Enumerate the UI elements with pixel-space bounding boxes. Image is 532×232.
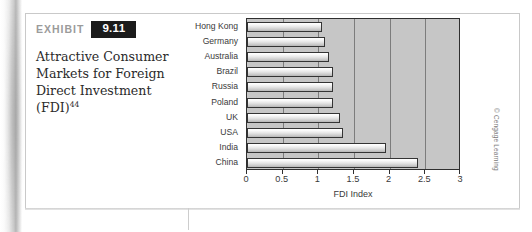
exhibit-header: EXHIBIT 9.11 (36, 22, 186, 37)
category-label-china: China (216, 157, 238, 167)
bar-row (247, 22, 459, 32)
bar-australia (247, 52, 329, 62)
tick-label-3: 3 (457, 174, 462, 185)
bar-row (247, 67, 459, 77)
exhibit-caption: EXHIBIT 9.11 Attractive Consumer Markets… (36, 22, 186, 116)
bar-russia (247, 82, 333, 92)
bar-india (247, 143, 386, 153)
bar-row (247, 113, 459, 123)
category-label-australia: Australia (205, 51, 238, 61)
tick-label-1.5: 1.5 (347, 174, 360, 185)
tick-label-1: 1 (315, 174, 320, 185)
title-footnote-marker: 44 (70, 100, 80, 109)
value-axis: 00.511.522.53 (246, 170, 460, 186)
category-label-russia: Russia (212, 81, 238, 91)
exhibit-title: Attractive Consumer Markets for Foreign … (36, 48, 186, 116)
bar-row (247, 37, 459, 47)
bar-hong-kong (247, 22, 322, 32)
bar-row (247, 52, 459, 62)
category-label-india: India (219, 142, 238, 152)
column-divider (188, 208, 189, 230)
category-label-hong-kong: Hong Kong (195, 21, 238, 31)
bar-germany (247, 37, 325, 47)
category-axis-labels: Hong KongGermanyAustraliaBrazilRussiaPol… (184, 18, 242, 170)
exhibit-label: EXHIBIT (36, 24, 84, 35)
title-line-2: Markets for Foreign (36, 66, 165, 81)
bar-poland (247, 98, 333, 108)
page-bottom-rule (25, 208, 520, 210)
bar-row (247, 143, 459, 153)
title-line-3: Direct Investment (36, 83, 151, 98)
category-label-uk: UK (226, 112, 238, 122)
bar-row (247, 128, 459, 138)
bar-uk (247, 113, 340, 123)
copyright-credit: © Cengage Learning (493, 108, 500, 171)
tick-label-0.5: 0.5 (275, 174, 288, 185)
fdi-index-bar-chart: Hong KongGermanyAustraliaBrazilRussiaPol… (240, 18, 493, 208)
bar-row (247, 82, 459, 92)
plot-inner (247, 19, 459, 169)
category-label-usa: USA (220, 127, 238, 137)
page-curl-shadow (0, 0, 22, 232)
title-line-1: Attractive Consumer (36, 49, 169, 64)
bar-usa (247, 128, 343, 138)
category-label-brazil: Brazil (217, 66, 239, 76)
category-label-germany: Germany (203, 36, 238, 46)
bar-china (247, 158, 418, 168)
plot-area (246, 18, 460, 170)
bar-row (247, 98, 459, 108)
bar-brazil (247, 67, 333, 77)
x-axis-title: FDI Index (246, 189, 460, 199)
category-label-poland: Poland (211, 97, 238, 107)
title-line-4: (FDI) (36, 100, 70, 115)
exhibit-number-badge: 9.11 (91, 21, 136, 38)
tick-label-0: 0 (243, 174, 248, 185)
tick-label-2.5: 2.5 (418, 174, 431, 185)
tick-label-2: 2 (386, 174, 391, 185)
bar-row (247, 158, 459, 168)
